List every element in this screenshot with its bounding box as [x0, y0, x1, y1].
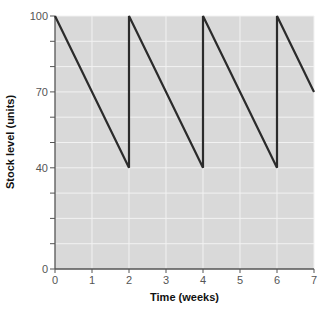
- y-tick-label: 0: [42, 263, 48, 275]
- y-tick-label: 40: [36, 162, 48, 174]
- x-tick-label: 7: [311, 274, 317, 286]
- x-tick-label: 1: [89, 274, 95, 286]
- x-tick-label: 0: [52, 274, 58, 286]
- y-axis-title: Stock level (units): [4, 95, 16, 189]
- stock-level-chart: 0407010001234567 Time (weeks) Stock leve…: [0, 0, 332, 313]
- x-tick-label: 2: [126, 274, 132, 286]
- x-axis-title: Time (weeks): [150, 291, 219, 303]
- y-tick-label: 70: [36, 86, 48, 98]
- x-tick-label: 4: [200, 274, 206, 286]
- x-tick-label: 5: [237, 274, 243, 286]
- x-tick-label: 3: [163, 274, 169, 286]
- x-tick-label: 6: [274, 274, 280, 286]
- y-tick-label: 100: [30, 10, 48, 22]
